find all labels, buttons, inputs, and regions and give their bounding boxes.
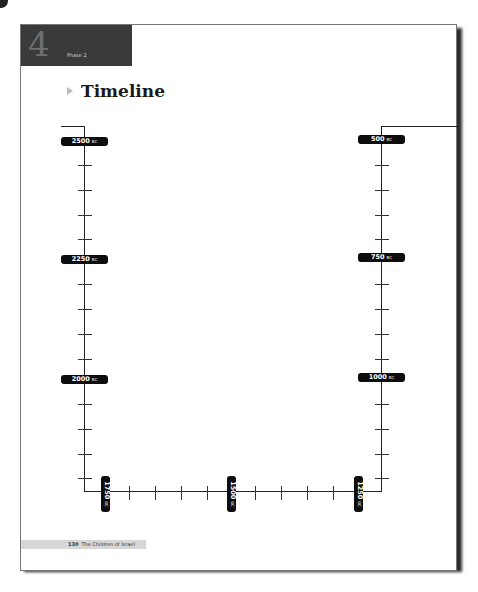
tick — [129, 486, 130, 500]
tick — [375, 429, 389, 430]
chapter-header-box: 4 Phase 2 — [21, 25, 132, 66]
timeline-label-750bc: 750BC — [358, 253, 405, 262]
triangle-right-icon — [67, 87, 73, 95]
timeline-label-1500bc: 1500BC — [227, 476, 236, 512]
tick — [78, 478, 92, 479]
tick — [375, 239, 389, 240]
timeline-label-500bc: 500BC — [358, 135, 405, 144]
tick — [375, 190, 389, 191]
tick — [375, 284, 389, 285]
tick — [375, 478, 389, 479]
footer-bar: 130The Children of Israel — [21, 540, 146, 549]
tick — [78, 239, 92, 240]
tick — [78, 404, 92, 405]
tick — [78, 429, 92, 430]
tick — [281, 486, 282, 500]
tick — [78, 454, 92, 455]
phase-label: Phase 2 — [67, 52, 87, 58]
page-title-group: Timeline — [67, 81, 165, 101]
tick — [181, 486, 182, 500]
tick — [375, 309, 389, 310]
tick — [333, 486, 334, 500]
timeline-label-2000bc: 2000BC — [61, 375, 108, 384]
tick — [155, 486, 156, 500]
timeline-label-2250bc: 2250BC — [61, 255, 108, 264]
tick — [78, 359, 92, 360]
footer-text: 130The Children of Israel — [68, 540, 135, 549]
tick — [78, 309, 92, 310]
tick — [207, 486, 208, 500]
timeline-right-top-stub — [381, 126, 458, 127]
timeline-label-2500bc: 2500BC — [61, 137, 108, 146]
page-number: 130 — [68, 541, 78, 547]
document-page: 4 Phase 2 Timeline 2500B — [20, 24, 457, 571]
tick — [78, 284, 92, 285]
tick — [307, 486, 308, 500]
book-title: The Children of Israel — [81, 541, 134, 547]
corner-decoration — [0, 0, 8, 8]
timeline-label-1750bc: 1750BC — [101, 476, 110, 512]
timeline-left-top-stub — [61, 126, 84, 127]
timeline-label-1250bc: 1250BC — [354, 476, 363, 512]
tick — [375, 404, 389, 405]
tick — [375, 454, 389, 455]
tick — [78, 334, 92, 335]
tick — [255, 486, 256, 500]
tick — [375, 334, 389, 335]
tick — [375, 165, 389, 166]
timeline-label-1000bc: 1000BC — [358, 373, 405, 382]
tick — [375, 215, 389, 216]
tick — [375, 359, 389, 360]
page-title: Timeline — [81, 81, 165, 101]
chapter-number: 4 — [28, 23, 50, 65]
tick — [78, 215, 92, 216]
tick — [78, 165, 92, 166]
tick — [78, 190, 92, 191]
